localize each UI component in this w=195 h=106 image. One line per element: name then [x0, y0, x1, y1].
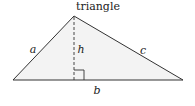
- triangle-shape: [13, 16, 183, 80]
- side-b-label: b: [93, 84, 100, 97]
- triangle-diagram: triangle a h c b: [0, 0, 195, 106]
- height-label: h: [77, 43, 84, 56]
- side-c-label: c: [140, 44, 146, 57]
- side-a-label: a: [30, 43, 37, 56]
- title-label: triangle: [76, 0, 120, 13]
